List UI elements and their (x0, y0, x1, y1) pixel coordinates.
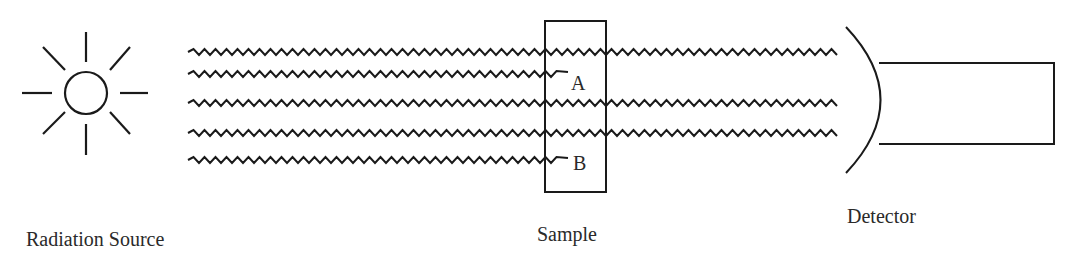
beam-4 (188, 130, 837, 136)
beam-2 (188, 71, 568, 77)
beam-1 (188, 49, 837, 55)
sun-icon (22, 32, 148, 155)
radiation-source-label: Radiation Source (26, 229, 164, 249)
beam-3 (188, 100, 837, 106)
region-b-label: B (573, 153, 586, 173)
detector-label: Detector (847, 206, 916, 226)
beam-5 (188, 157, 568, 163)
sample-label: Sample (537, 224, 597, 244)
radiation-beams (188, 49, 837, 163)
region-a-label: A (571, 73, 585, 93)
detector-icon (846, 27, 1054, 173)
